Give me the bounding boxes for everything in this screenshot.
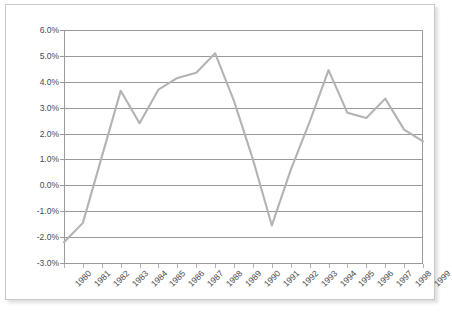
x-tick-label: 1993 — [320, 269, 340, 289]
x-tick-label: 1981 — [93, 269, 113, 289]
y-tick-mark — [60, 263, 64, 264]
x-tick-mark — [423, 264, 424, 268]
x-tick-label: 1990 — [263, 269, 283, 289]
y-tick-label: 6.0% — [40, 26, 59, 35]
y-tick-mark — [60, 211, 64, 212]
x-tick-mark — [253, 264, 254, 268]
x-tick-label: 1984 — [150, 269, 170, 289]
x-tick-label: 1988 — [225, 269, 245, 289]
y-tick-label: 0.0% — [40, 181, 59, 190]
x-tick-mark — [366, 264, 367, 268]
x-tick-mark — [64, 264, 65, 268]
chart-frame: 6.0%5.0%4.0%3.0%2.0%1.0%0.0%-1.0%-2.0%-3… — [5, 4, 435, 300]
x-tick-mark — [158, 264, 159, 268]
x-tick-label: 1998 — [414, 269, 434, 289]
y-tick-label: 5.0% — [40, 52, 59, 61]
x-tick-label: 1986 — [187, 269, 207, 289]
line-series-1 — [64, 30, 423, 263]
y-tick-mark — [60, 159, 64, 160]
x-tick-mark — [196, 264, 197, 268]
y-tick-mark — [60, 237, 64, 238]
y-tick-mark — [60, 134, 64, 135]
y-tick-mark — [60, 185, 64, 186]
x-tick-mark — [329, 264, 330, 268]
x-tick-mark — [102, 264, 103, 268]
y-axis-labels: 6.0%5.0%4.0%3.0%2.0%1.0%0.0%-1.0%-2.0%-3… — [14, 30, 59, 263]
y-tick-label: -3.0% — [37, 259, 59, 268]
x-tick-label: 1985 — [168, 269, 188, 289]
x-tick-label: 1982 — [112, 269, 132, 289]
y-tick-label: -1.0% — [37, 207, 59, 216]
x-tick-label: 1996 — [376, 269, 396, 289]
x-tick-label: 1983 — [131, 269, 151, 289]
x-tick-mark — [404, 264, 405, 268]
x-tick-mark — [177, 264, 178, 268]
x-tick-mark — [385, 264, 386, 268]
x-tick-label: 1987 — [206, 269, 226, 289]
y-tick-mark — [60, 108, 64, 109]
gridline — [64, 263, 423, 264]
y-tick-mark — [60, 82, 64, 83]
x-tick-label: 1994 — [339, 269, 359, 289]
x-tick-mark — [272, 264, 273, 268]
y-tick-mark — [60, 30, 64, 31]
x-tick-label: 1999 — [433, 269, 452, 289]
x-tick-label: 1997 — [395, 269, 415, 289]
x-tick-label: 1991 — [282, 269, 302, 289]
x-tick-label: 1989 — [244, 269, 264, 289]
x-tick-mark — [234, 264, 235, 268]
x-tick-mark — [83, 264, 84, 268]
x-tick-mark — [215, 264, 216, 268]
x-tick-mark — [310, 264, 311, 268]
y-tick-label: 1.0% — [40, 155, 59, 164]
y-tick-label: 2.0% — [40, 130, 59, 139]
x-tick-mark — [291, 264, 292, 268]
x-tick-label: 1980 — [74, 269, 94, 289]
y-tick-mark — [60, 56, 64, 57]
y-tick-label: -2.0% — [37, 233, 59, 242]
x-tick-label: 1992 — [301, 269, 321, 289]
x-tick-mark — [347, 264, 348, 268]
x-tick-label: 1995 — [357, 269, 377, 289]
y-tick-label: 4.0% — [40, 78, 59, 87]
series-polyline — [64, 53, 423, 242]
y-tick-label: 3.0% — [40, 104, 59, 113]
x-tick-mark — [121, 264, 122, 268]
x-tick-mark — [140, 264, 141, 268]
